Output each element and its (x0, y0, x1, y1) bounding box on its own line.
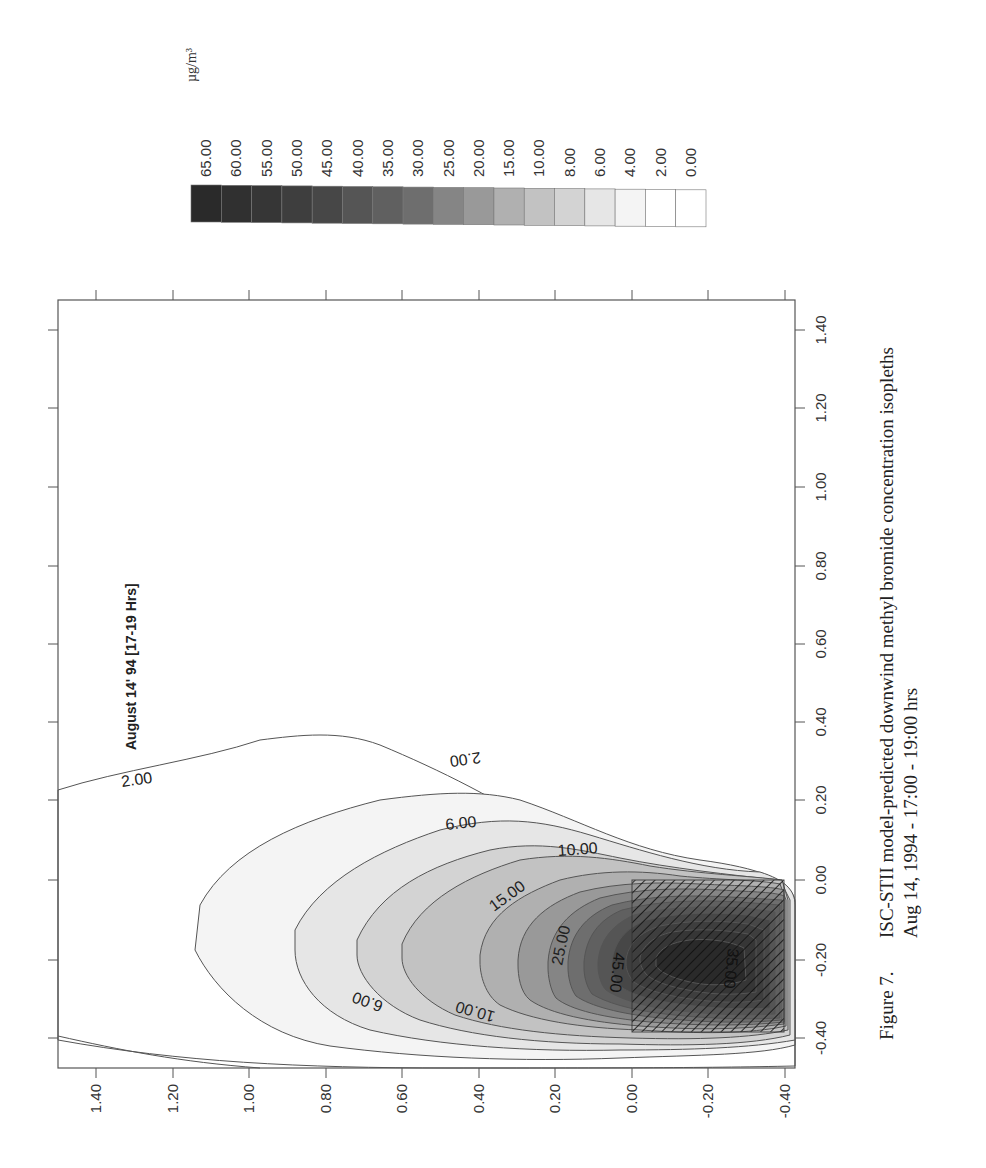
bottom-tick-label: -0.20 (699, 1084, 716, 1118)
bottom-tick-label: 0.80 (317, 1084, 334, 1113)
legend-unit: µg/m³ (184, 48, 199, 82)
legend-label: 55.00 (258, 139, 275, 177)
legend-label: 8.00 (561, 148, 578, 177)
bottom-tick-label: 0.20 (546, 1084, 563, 1113)
legend-label: 60.00 (227, 139, 244, 177)
caption-title: ISC-STII model-predicted downwind methyl… (876, 347, 897, 938)
left-axis-ticks (48, 330, 58, 1038)
legend-label: 4.00 (621, 148, 638, 177)
legend-swatch (676, 190, 706, 227)
legend-label: 65.00 (197, 139, 214, 177)
top-axis-ticks (96, 290, 785, 300)
caption-subtitle: Aug 14, 1994 - 17:00 - 19:00 hrs (900, 688, 921, 938)
bottom-axis: 1.401.201.000.800.600.400.200.00-0.20-0.… (87, 1068, 793, 1118)
legend-swatch (464, 188, 494, 225)
legend-swatch (221, 185, 251, 222)
legend-swatch (524, 188, 554, 225)
contour-label-10-top: 10.00 (557, 839, 598, 859)
legend-swatch (585, 189, 615, 226)
legend-swatch (312, 186, 342, 223)
right-axis: 1.401.201.000.800.600.400.200.00-0.20-0.… (795, 315, 829, 1055)
legend-label: 50.00 (288, 139, 305, 177)
right-tick-label: 1.20 (812, 393, 829, 422)
right-tick-label: 0.80 (812, 551, 829, 580)
legend-label: 45.00 (318, 139, 335, 177)
contour-label-2-right: 2.00 (449, 749, 482, 770)
bottom-tick-label: 1.40 (87, 1084, 104, 1113)
legend-swatch (494, 188, 524, 225)
legend-swatch (342, 187, 372, 224)
legend-label: 25.00 (440, 139, 457, 177)
legend-label: 2.00 (652, 148, 669, 177)
right-tick-label: 0.00 (812, 865, 829, 894)
legend-swatch (373, 187, 403, 224)
legend-swatch (403, 187, 433, 224)
legend-swatch (615, 189, 645, 226)
plot-annotation: August 14' 94 [17-19 Hrs] (123, 583, 139, 750)
source-area-hatch (632, 880, 784, 1032)
right-tick-label: -0.40 (812, 1021, 829, 1055)
legend-label: 30.00 (409, 139, 426, 177)
bottom-tick-label: 1.00 (240, 1084, 257, 1113)
bottom-tick-label: 0.00 (623, 1084, 640, 1113)
legend-swatch (433, 187, 463, 224)
legend-label: 6.00 (591, 148, 608, 177)
plot-area: 2.00 2.00 6.00 6.00 10.00 10.00 15.00 25… (48, 290, 829, 1118)
legend-swatch (191, 185, 221, 222)
bottom-tick-label: -0.40 (776, 1084, 793, 1118)
legend-swatch (555, 189, 585, 226)
figure-caption: Figure 7. ISC-STII model-predicted downw… (876, 347, 921, 1040)
legend-label: 0.00 (682, 148, 699, 177)
caption-number: Figure 7. (876, 971, 897, 1040)
legend-swatch (282, 186, 312, 223)
right-tick-label: 0.40 (812, 707, 829, 736)
figure-canvas: 65.0060.0055.0050.0045.0040.0035.0030.00… (0, 0, 986, 1168)
legend-label: 10.00 (530, 139, 547, 177)
legend: 65.0060.0055.0050.0045.0040.0035.0030.00… (191, 139, 706, 226)
legend-label: 20.00 (470, 139, 487, 177)
right-tick-label: 1.00 (812, 472, 829, 501)
legend-swatch (252, 186, 282, 223)
bottom-tick-label: 0.40 (470, 1084, 487, 1113)
legend-swatch (645, 190, 675, 227)
bottom-tick-label: 0.60 (393, 1084, 410, 1113)
legend-label: 15.00 (500, 139, 517, 177)
right-tick-label: 0.60 (812, 629, 829, 658)
bottom-tick-label: 1.20 (164, 1084, 181, 1113)
right-tick-label: -0.20 (812, 943, 829, 977)
legend-label: 35.00 (379, 139, 396, 177)
right-tick-label: 0.20 (812, 785, 829, 814)
right-tick-label: 1.40 (812, 315, 829, 344)
contour-label-6-top: 6.00 (445, 813, 478, 833)
legend-label: 40.00 (349, 139, 366, 177)
